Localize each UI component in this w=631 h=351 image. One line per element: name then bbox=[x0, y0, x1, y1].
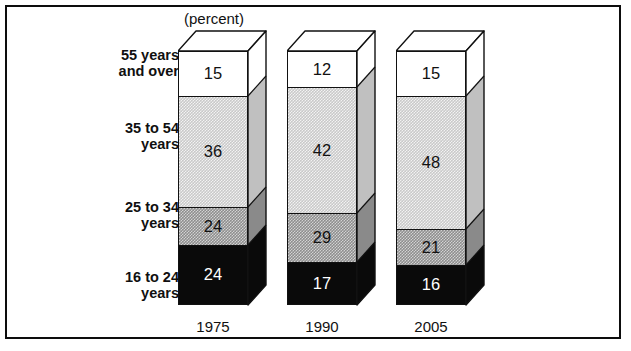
bar-front-2005: 15 48 21 16 bbox=[396, 30, 466, 285]
segment-1990-55-plus[interactable]: 12 bbox=[287, 51, 357, 87]
segment-2005-55-plus[interactable]: 15 bbox=[396, 51, 466, 96]
bar-front-1975: 15 36 24 24 bbox=[178, 30, 248, 285]
segment-value: 16 bbox=[422, 275, 440, 294]
segment-2005-35-54[interactable]: 48 bbox=[396, 96, 466, 229]
segment-value: 12 bbox=[313, 60, 331, 79]
bar-front-1990: 12 42 29 17 bbox=[287, 30, 357, 285]
year-label-1975: 1975 bbox=[178, 318, 248, 335]
bar-2005[interactable]: 15 48 21 16 bbox=[396, 30, 466, 315]
segment-1975-55-plus[interactable]: 15 bbox=[178, 51, 248, 96]
segment-value: 36 bbox=[204, 142, 222, 161]
segment-1975-16-24[interactable]: 24 bbox=[178, 245, 248, 305]
segment-value: 24 bbox=[204, 265, 222, 284]
year-label-1990: 1990 bbox=[287, 318, 357, 335]
segment-1975-35-54[interactable]: 36 bbox=[178, 96, 248, 207]
segment-1975-25-34[interactable]: 24 bbox=[178, 207, 248, 245]
segment-value: 42 bbox=[313, 141, 331, 160]
category-label-25-34: 25 to 34 years bbox=[49, 199, 179, 231]
year-label-2005: 2005 bbox=[396, 318, 466, 335]
segment-value: 48 bbox=[422, 153, 440, 172]
segment-value: 15 bbox=[422, 64, 440, 83]
bar-1990[interactable]: 12 42 29 17 bbox=[287, 30, 357, 315]
bar-1975[interactable]: 15 36 24 24 bbox=[178, 30, 248, 315]
segment-1990-25-34[interactable]: 29 bbox=[287, 213, 357, 262]
segment-value: 21 bbox=[422, 238, 440, 257]
segment-value: 15 bbox=[204, 64, 222, 83]
segment-1990-16-24[interactable]: 17 bbox=[287, 262, 357, 305]
segment-value: 17 bbox=[313, 274, 331, 293]
segment-2005-25-34[interactable]: 21 bbox=[396, 229, 466, 265]
segment-value: 24 bbox=[204, 217, 222, 236]
category-label-16-24: 16 to 24 years bbox=[49, 269, 179, 301]
segment-2005-16-24[interactable]: 16 bbox=[396, 265, 466, 305]
segment-value: 29 bbox=[313, 228, 331, 247]
category-label-35-54: 35 to 54 years bbox=[49, 120, 179, 152]
percent-caption: (percent) bbox=[184, 10, 244, 27]
category-label-55-plus: 55 years and over bbox=[49, 47, 179, 79]
chart-page: (percent) 55 years and over 35 to 54 yea… bbox=[0, 0, 631, 351]
segment-1990-35-54[interactable]: 42 bbox=[287, 87, 357, 213]
